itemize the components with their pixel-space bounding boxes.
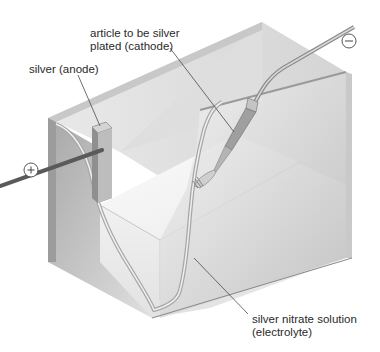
anode-label: silver (anode) — [29, 63, 99, 76]
anode-label-text: silver (anode) — [29, 63, 99, 76]
cathode-label: article to be silver plated (cathode) — [90, 27, 179, 53]
silver-anode — [92, 122, 112, 203]
negative-terminal-icon — [342, 34, 356, 48]
electrolyte-label: silver nitrate solution (electrolyte) — [252, 313, 357, 339]
electrolyte-label-line1: silver nitrate solution — [252, 313, 357, 326]
cathode-label-line2: plated (cathode) — [90, 40, 179, 53]
positive-terminal-icon — [24, 163, 38, 177]
electrolyte-label-line2: (electrolyte) — [252, 326, 357, 339]
electroplating-diagram — [0, 0, 380, 352]
cathode-label-line1: article to be silver — [90, 27, 179, 40]
